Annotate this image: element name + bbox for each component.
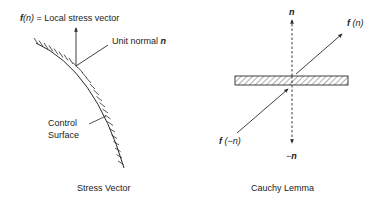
n-symbol: n	[161, 36, 167, 46]
control-surface-curve	[34, 38, 124, 168]
normal-down-label: −n	[286, 151, 297, 161]
unit-normal-line	[76, 45, 108, 66]
control-surface-label: Control Surface	[48, 117, 79, 141]
hatched-plate	[235, 76, 348, 85]
f-argument: (−n)	[222, 136, 241, 146]
f-n-arrow	[296, 34, 342, 74]
f-minus-n-arrow	[237, 89, 288, 133]
stress-vector-label: f(n) = Local stress vector	[20, 13, 119, 23]
f-minus-n-label: f (−n)	[219, 136, 241, 146]
control-surface-line2: Surface	[48, 129, 79, 141]
f-n-label: f (n)	[347, 18, 364, 28]
unit-normal-text: Unit normal	[112, 36, 161, 46]
control-surface-line1: Control	[48, 117, 79, 129]
diagram-canvas	[0, 0, 382, 203]
normal-up-label: n	[289, 7, 295, 17]
n-symbol: n	[291, 151, 297, 161]
cauchy-lemma-caption: Cauchy Lemma	[251, 183, 314, 193]
f-argument: (n)	[23, 13, 34, 23]
f-argument: (n)	[350, 18, 364, 28]
stress-vector-text: = Local stress vector	[34, 13, 119, 23]
stress-vector-caption: Stress Vector	[77, 183, 131, 193]
control-surface-leader	[89, 116, 106, 124]
unit-normal-label: Unit normal n	[112, 36, 166, 46]
